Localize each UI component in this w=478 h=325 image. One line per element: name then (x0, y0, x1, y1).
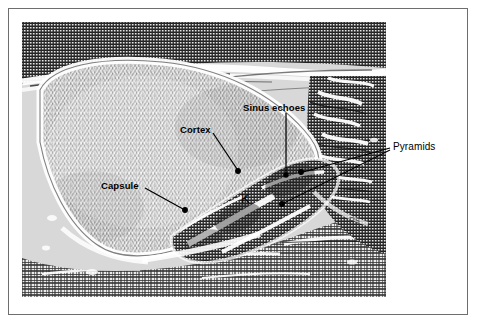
label-sinus-echoes[interactable]: Sinus echoes (243, 103, 305, 113)
label-ps-marker[interactable]: Ps (349, 216, 360, 225)
figure-root: Sinus echoes Cortex Capsule Pyramids K P… (0, 0, 478, 325)
ultrasound-image (22, 22, 386, 297)
label-cortex[interactable]: Cortex (180, 125, 211, 135)
label-capsule[interactable]: Capsule (101, 181, 139, 191)
label-pyramids[interactable]: Pyramids (393, 142, 435, 152)
ultrasound-canvas (22, 22, 386, 297)
label-kidney-marker[interactable]: K (241, 192, 250, 205)
